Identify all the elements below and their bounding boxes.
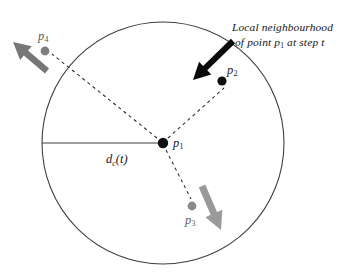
point-label-p4: p4 xyxy=(38,30,48,43)
point-dot-p2 xyxy=(217,76,226,85)
link-p1-p2 xyxy=(168,88,224,138)
distance-label: dc(t) xyxy=(106,153,128,166)
caption-line-1: Local neighbourhood xyxy=(232,20,360,35)
distance-label-post: (t) xyxy=(116,152,128,166)
caption-block: Local neighbourhood of point p1 at step … xyxy=(232,20,360,50)
point-label-p2-base: p xyxy=(227,63,233,77)
point-label-p2-subscript: 2 xyxy=(234,69,238,78)
caption-line-2-pre: of point p xyxy=(235,36,280,48)
point-label-p1: p1 xyxy=(173,137,183,150)
arrow-p4 xyxy=(13,42,49,73)
link-p1-p4 xyxy=(52,54,157,138)
point-label-p1-base: p xyxy=(173,136,179,150)
velocity-arrows-group xyxy=(13,39,235,230)
distance-label-subscript: c xyxy=(112,159,116,168)
point-label-p4-subscript: 4 xyxy=(45,35,49,44)
caption-line-2-subscript: 1 xyxy=(280,41,284,50)
point-dot-p1 xyxy=(158,138,168,148)
link-p1-p3 xyxy=(166,150,191,199)
point-dot-p3 xyxy=(188,202,197,211)
arrow-p3 xyxy=(199,185,223,230)
point-label-p3-subscript: 3 xyxy=(192,219,196,228)
point-dot-p4 xyxy=(41,47,50,56)
caption-line-2-post: at step t xyxy=(284,36,324,48)
point-label-p1-subscript: 1 xyxy=(180,142,184,151)
point-label-p3: p3 xyxy=(185,214,195,227)
caption-line-2: of point p1 at step t xyxy=(232,35,360,50)
point-label-p4-base: p xyxy=(38,29,44,43)
point-label-p3-base: p xyxy=(185,213,191,227)
point-label-p2: p2 xyxy=(227,64,237,77)
local-neighbourhood-figure: Local neighbourhood of point p1 at step … xyxy=(0,0,362,275)
